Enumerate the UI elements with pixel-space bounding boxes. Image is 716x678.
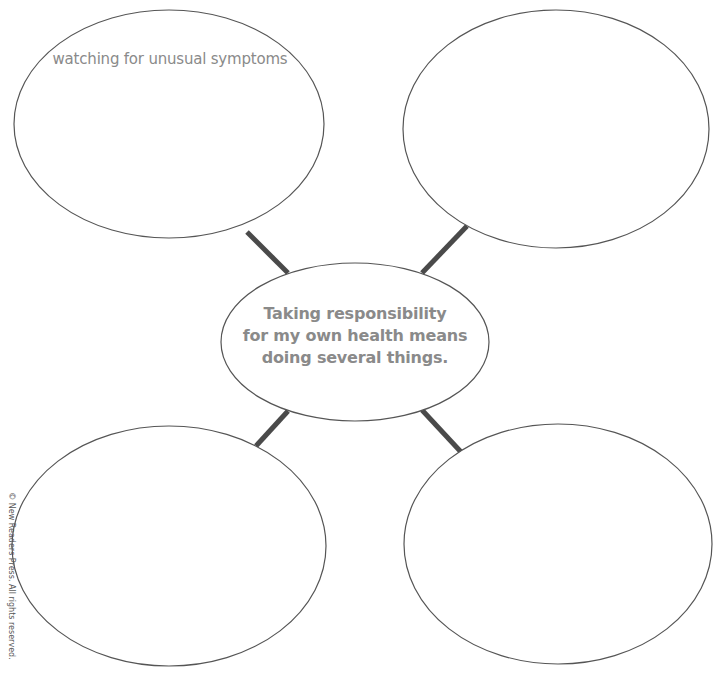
center-text-line: doing several things. [240, 347, 470, 369]
bubble-bottom-right [404, 424, 712, 664]
bubble-top-right [403, 10, 709, 248]
copyright-notice: © New Readers Press. All rights reserved… [4, 486, 16, 666]
bubble-top-left [14, 10, 324, 238]
connector-top-left [247, 232, 288, 273]
center-text-line: Taking responsibility [240, 303, 470, 325]
center-text-line: for my own health means [240, 325, 470, 347]
bubble-top-left-text: watching for unusual symptoms [40, 50, 300, 68]
connector-bottom-left [256, 411, 288, 446]
connector-bottom-right [422, 410, 461, 452]
connector-top-right [422, 226, 467, 273]
center-bubble-text: Taking responsibility for my own health … [240, 303, 470, 369]
bubble-bottom-left [12, 426, 326, 666]
